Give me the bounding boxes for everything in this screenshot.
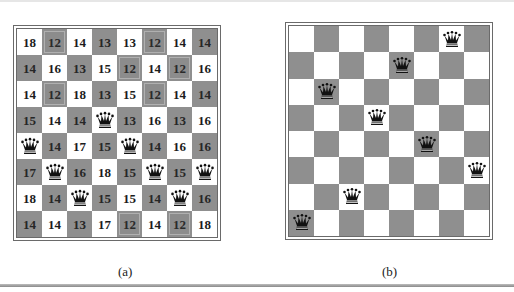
cost-value: 16 xyxy=(198,192,211,205)
cost-square: 16 xyxy=(167,133,192,159)
cost-square: 14 xyxy=(192,29,217,55)
cost-value: 14 xyxy=(148,62,161,75)
cost-square: 14 xyxy=(67,107,92,133)
empty-square xyxy=(389,79,414,105)
queen-square xyxy=(414,131,439,157)
queen-square xyxy=(67,185,92,211)
empty-square xyxy=(289,52,314,78)
empty-square xyxy=(314,105,339,131)
cost-value: 16 xyxy=(198,114,211,127)
empty-square xyxy=(389,184,414,210)
cost-value: 13 xyxy=(123,114,136,127)
cost-value: 15 xyxy=(123,88,136,101)
cost-square: 14 xyxy=(167,81,192,107)
cost-square: 14 xyxy=(67,29,92,55)
cost-value: 14 xyxy=(73,114,86,127)
best-move-square: 12 xyxy=(142,29,167,55)
cost-value: 13 xyxy=(98,36,111,49)
cost-value: 13 xyxy=(73,62,86,75)
cost-square: 14 xyxy=(142,185,167,211)
queen-square xyxy=(42,159,67,185)
cost-value: 14 xyxy=(173,88,186,101)
empty-square xyxy=(389,105,414,131)
queen-icon xyxy=(342,186,362,207)
empty-square xyxy=(414,105,439,131)
cost-square: 13 xyxy=(67,55,92,81)
best-move-square: 12 xyxy=(42,29,67,55)
empty-square xyxy=(289,26,314,52)
cost-value: 15 xyxy=(173,166,186,179)
empty-square xyxy=(339,79,364,105)
cost-square: 16 xyxy=(192,133,217,159)
cost-square: 13 xyxy=(67,211,92,237)
cost-square: 14 xyxy=(42,107,67,133)
cost-value: 12 xyxy=(148,88,161,101)
cost-value: 16 xyxy=(148,114,161,127)
cost-value: 17 xyxy=(73,140,86,153)
cost-value: 16 xyxy=(198,62,211,75)
queen-square xyxy=(314,79,339,105)
empty-square xyxy=(414,184,439,210)
cost-value: 12 xyxy=(148,36,161,49)
empty-square xyxy=(339,26,364,52)
empty-square xyxy=(439,79,464,105)
empty-square xyxy=(339,131,364,157)
cost-square: 14 xyxy=(142,133,167,159)
cost-square: 17 xyxy=(67,133,92,159)
empty-square xyxy=(289,79,314,105)
empty-square xyxy=(414,157,439,183)
cost-value: 14 xyxy=(48,140,61,153)
caption-b: (b) xyxy=(382,265,397,278)
cost-value: 14 xyxy=(148,140,161,153)
cost-square: 14 xyxy=(192,81,217,107)
empty-square xyxy=(364,52,389,78)
empty-square xyxy=(389,131,414,157)
empty-square xyxy=(364,157,389,183)
queen-square xyxy=(364,105,389,131)
empty-square xyxy=(314,157,339,183)
cost-value: 14 xyxy=(148,192,161,205)
cost-square: 18 xyxy=(192,211,217,237)
cost-value: 17 xyxy=(23,166,36,179)
best-move-square: 12 xyxy=(117,55,142,81)
queen-icon xyxy=(120,136,140,157)
cost-square: 18 xyxy=(67,81,92,107)
cost-square: 16 xyxy=(142,107,167,133)
cost-square: 14 xyxy=(17,81,42,107)
cost-value: 15 xyxy=(98,140,111,153)
board-a-frame: 1812141313121414141613151214121614121813… xyxy=(13,25,221,241)
cost-square: 14 xyxy=(17,211,42,237)
cost-square: 16 xyxy=(192,107,217,133)
cost-square: 18 xyxy=(92,159,117,185)
queen-icon xyxy=(292,212,312,233)
cost-square: 15 xyxy=(92,185,117,211)
queen-square xyxy=(389,52,414,78)
empty-square xyxy=(289,157,314,183)
empty-square xyxy=(364,184,389,210)
bottom-rule xyxy=(0,284,514,287)
cost-value: 14 xyxy=(23,218,36,231)
queen-square xyxy=(289,210,314,236)
empty-square xyxy=(464,79,489,105)
queen-icon xyxy=(417,134,437,155)
queen-icon xyxy=(70,188,90,209)
best-move-square: 12 xyxy=(167,55,192,81)
empty-square xyxy=(414,79,439,105)
empty-square xyxy=(289,184,314,210)
empty-square xyxy=(289,131,314,157)
cost-square: 14 xyxy=(17,55,42,81)
cost-value: 12 xyxy=(173,62,186,75)
cost-square: 14 xyxy=(42,133,67,159)
cost-value: 14 xyxy=(198,88,211,101)
cost-square: 14 xyxy=(167,29,192,55)
cost-square: 17 xyxy=(17,159,42,185)
caption-a: (a) xyxy=(118,265,132,278)
empty-square xyxy=(439,210,464,236)
cost-square: 16 xyxy=(192,55,217,81)
cost-value: 14 xyxy=(48,192,61,205)
empty-square xyxy=(289,105,314,131)
cost-value: 16 xyxy=(173,140,186,153)
empty-square xyxy=(414,52,439,78)
empty-square xyxy=(439,157,464,183)
empty-square xyxy=(314,184,339,210)
